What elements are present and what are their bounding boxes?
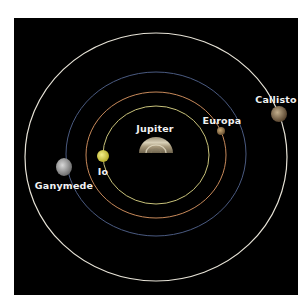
jupiter xyxy=(139,137,173,153)
orbit-io xyxy=(103,106,209,204)
label-ganymede: Ganymede xyxy=(35,180,93,191)
orbit-diagram xyxy=(0,0,307,304)
orbits xyxy=(25,33,287,281)
moon-io xyxy=(97,150,109,162)
moon-ganymede xyxy=(56,158,72,176)
moons xyxy=(56,106,287,176)
label-io: Io xyxy=(98,166,108,177)
moon-europa xyxy=(217,127,225,135)
label-jupiter: Jupiter xyxy=(136,123,173,134)
label-europa: Europa xyxy=(203,115,242,126)
orbit-callisto xyxy=(25,33,287,281)
label-callisto: Callisto xyxy=(255,94,296,105)
orbit-ganymede xyxy=(66,72,246,236)
moon-callisto xyxy=(271,106,287,122)
